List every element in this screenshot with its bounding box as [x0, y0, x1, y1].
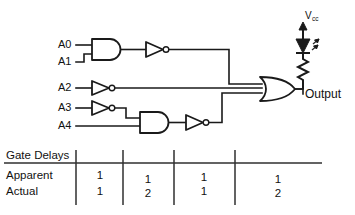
table-cell-apparent-3: 1	[201, 171, 207, 183]
not-gate-a2	[92, 81, 109, 95]
wire-not3-to-or	[209, 93, 262, 123]
and-gate-a0a1	[92, 39, 121, 60]
resistor	[298, 53, 308, 89]
not-gate-and2-bubble	[203, 120, 209, 126]
not-gate-and1	[146, 42, 163, 57]
input-label-a1: A1	[58, 55, 71, 67]
table-cell-apparent-1: 1	[97, 169, 103, 181]
table-cell-actual-3: 1	[201, 185, 207, 197]
led-body	[296, 39, 310, 53]
wire-not-a3-to-and2	[115, 108, 140, 118]
table-row-label-apparent: Apparent	[6, 169, 53, 181]
wire-a1	[76, 54, 92, 62]
not-gate-and1-bubble	[163, 47, 169, 53]
table-cell-apparent-2: 1	[145, 173, 151, 185]
wire-not1-to-or	[169, 50, 262, 85]
not-gate-a3-bubble	[109, 105, 115, 111]
table-header-label: Gate Delays	[6, 149, 70, 161]
input-label-a2: A2	[58, 81, 71, 93]
not-gate-a3	[92, 101, 109, 115]
table-cell-actual-4: 2	[275, 187, 281, 199]
input-label-a3: A3	[58, 101, 71, 113]
not-gate-and2	[186, 115, 203, 130]
table-cell-actual-1: 1	[97, 185, 103, 197]
not-gate-a2-bubble	[109, 85, 115, 91]
diagram-canvas: A0 A1 A2 A3 A4	[0, 0, 355, 215]
table-cell-actual-2: 2	[145, 187, 151, 199]
and-gate-a3a4	[140, 112, 169, 133]
vcc-subscript: cc	[312, 15, 319, 22]
logic-circuit-diagram: A0 A1 A2 A3 A4	[0, 0, 355, 215]
input-label-a0: A0	[58, 38, 71, 50]
input-label-a4: A4	[58, 119, 71, 131]
vcc-arrow-icon	[299, 22, 307, 30]
table-cell-apparent-4: 1	[275, 173, 281, 185]
output-label: Output	[305, 87, 342, 101]
or-gate-output	[260, 77, 295, 101]
table-row-label-actual: Actual	[6, 185, 38, 197]
vcc-label: V	[305, 10, 312, 21]
